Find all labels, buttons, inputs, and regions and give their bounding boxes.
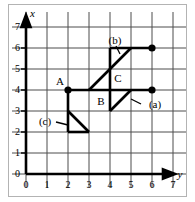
htick-5: 5 [129,179,134,190]
htick-3: 3 [87,179,92,190]
vtick-1: 1 [15,147,20,158]
vtick-2: 2 [15,126,20,137]
vtick-3: 3 [15,105,20,116]
marker-point-right [148,86,155,93]
vertical-axis-label: x [29,7,35,19]
htick-7: 7 [171,179,176,190]
callout-label-c: (c) [39,115,52,128]
vtick-6: 6 [15,42,20,53]
point-label-B: B [97,95,104,107]
callout-label-a: (a) [149,98,162,111]
point-label-A: A [56,75,64,87]
vtick-5: 5 [15,63,20,74]
callout-label-b: (b) [109,34,122,47]
point-label-C: C [114,72,121,84]
htick-2: 2 [66,179,71,190]
htick-1: 1 [45,179,50,190]
marker-point-top-right [148,44,155,51]
htick-6: 6 [150,179,155,190]
coordinate-grid-svg: x y 0 1 2 3 4 5 6 7 0 1 2 3 4 5 6 7 A B … [0,0,195,202]
vtick-7: 7 [15,21,20,32]
htick-4: 4 [108,179,113,190]
marker-point-A [64,86,71,93]
vtick-4: 4 [15,84,20,95]
htick-0: 0 [24,179,29,190]
horizontal-axis-label: y [177,168,183,180]
vtick-0: 0 [15,168,20,179]
coordinate-plot-figure: x y 0 1 2 3 4 5 6 7 0 1 2 3 4 5 6 7 A B … [0,0,195,202]
